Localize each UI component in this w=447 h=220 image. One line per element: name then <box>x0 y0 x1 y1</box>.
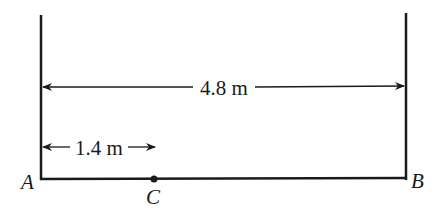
point-c-label: C <box>146 185 161 209</box>
dimension-total: 4.8 m <box>43 76 404 100</box>
beam-diagram: 4.8 m 1.4 m A B C <box>0 0 447 220</box>
dimension-total-label: 4.8 m <box>200 76 248 100</box>
dimension-ac-label: 1.4 m <box>75 136 123 160</box>
beam-ab <box>40 178 407 179</box>
point-a-label: A <box>19 170 34 194</box>
point-c-dot <box>151 176 158 183</box>
point-b-label: B <box>411 169 424 193</box>
dimension-ac: 1.4 m <box>43 136 155 160</box>
